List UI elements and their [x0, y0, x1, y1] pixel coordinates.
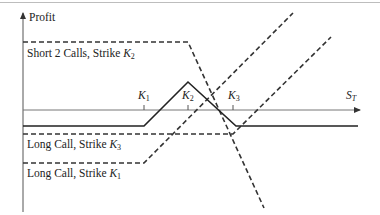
long-call-k3-label: Long Call, Strike K3	[27, 139, 121, 152]
k1-label: K1	[138, 90, 150, 103]
y-axis-label: Profit	[29, 12, 55, 24]
short-calls-label: Short 2 Calls, Strike K2	[27, 48, 135, 61]
payoff-diagram	[0, 0, 380, 215]
k2-label: K2	[182, 90, 194, 103]
k3-label: K3	[228, 90, 240, 103]
long-call-k1-label: Long Call, Strike K1	[27, 168, 121, 181]
series-short-2-calls-k2	[23, 42, 264, 208]
x-axis-label: ST	[346, 90, 356, 103]
series-butterfly-total	[23, 82, 358, 126]
